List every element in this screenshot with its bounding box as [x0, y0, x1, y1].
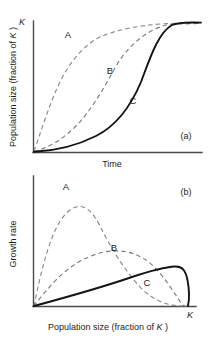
panel-b-curve-c [34, 266, 189, 306]
panel-a-label-curve-a: A [65, 29, 72, 40]
panel-a-label-curve-c: C [130, 95, 137, 106]
panel-a-y-axis-k-tick: K [19, 17, 26, 27]
panel-b-label-curve-a: A [63, 181, 70, 192]
panel-b-curve-b [34, 251, 186, 306]
panel-b-y-axis-label: Growth rate [8, 220, 18, 267]
panel-a-curve-c [34, 22, 201, 151]
panel-a-curve-b [34, 23, 201, 151]
panel-b-label-curve-c: C [144, 277, 151, 288]
panel-b-x-axis-k-tick: K [187, 310, 194, 320]
panel-a-y-axis-label: Population size (fraction of K ) [8, 27, 18, 147]
panel-a-y-axis-label-tail: ) [8, 27, 18, 33]
panel-a-tag: (a) [181, 131, 192, 141]
panel-b-label-curve-b: B [111, 242, 117, 253]
figure-population-growth: K A B C (a) Time Population size (fracti… [0, 0, 211, 339]
panel-b-x-axis-label-text: Population size (fraction of [48, 322, 157, 332]
panel-a-y-axis-label-text: Population size (fraction of [8, 38, 18, 147]
panel-a-label-curve-b: B [107, 65, 113, 76]
panel-b-x-axis-label: Population size (fraction of K ) [48, 322, 168, 332]
chart-panel-b: K A B C (b) Population size (fraction of… [0, 166, 211, 339]
chart-panel-a: K A B C (a) Time Population size (fracti… [0, 0, 211, 170]
panel-b-tag: (b) [181, 187, 192, 197]
panel-a-curve-a [34, 23, 201, 151]
panel-b-curve-a [34, 206, 183, 306]
panel-b-x-axis-label-tail: ) [163, 322, 169, 332]
